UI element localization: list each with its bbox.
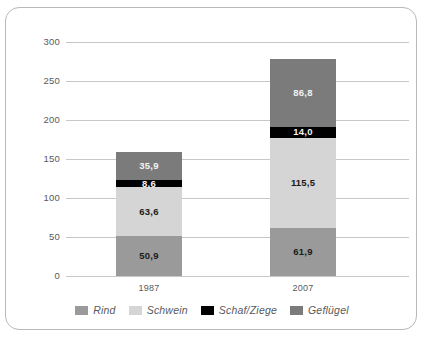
y-axis-tick-label: 50 (18, 231, 60, 242)
bar-segment: 14,0 (270, 127, 336, 138)
chart-card: 050100150200250300 50,963,68,635,961,911… (5, 7, 417, 330)
legend-swatch-schaf-ziege (201, 306, 214, 315)
gridline (66, 276, 409, 277)
bar-segment: 115,5 (270, 138, 336, 228)
bar-segment: 35,9 (116, 152, 182, 180)
legend-item-label: Schwein (147, 304, 188, 316)
bar-segment-value-label: 86,8 (293, 88, 312, 98)
x-axis-tick-label: 2007 (263, 283, 343, 293)
legend-item[interactable]: Rind (75, 304, 115, 316)
legend-swatch-gefluegel (290, 306, 303, 315)
legend-item-label: Rind (93, 304, 115, 316)
bar-segment-value-label: 14,0 (293, 127, 312, 137)
y-axis-tick-label: 150 (18, 153, 60, 164)
x-axis-tick-label: 1987 (109, 283, 189, 293)
y-axis-tick-label: 0 (18, 270, 60, 281)
y-axis-tick-label: 300 (18, 36, 60, 47)
bar-segment-value-label: 8,6 (142, 179, 156, 189)
bar-segment: 8,6 (116, 180, 182, 187)
bar-segment-value-label: 63,6 (139, 207, 158, 217)
bar-segment: 86,8 (270, 59, 336, 127)
y-axis-tick-label: 250 (18, 75, 60, 86)
bar-segment: 61,9 (270, 228, 336, 276)
legend-swatch-schwein (129, 306, 142, 315)
legend-item-label: Geflügel (308, 304, 349, 316)
legend-item[interactable]: Geflügel (290, 304, 349, 316)
bar-segment-value-label: 35,9 (139, 161, 158, 171)
stacked-bar: 61,9115,514,086,8 (270, 42, 336, 276)
bar-segment-value-label: 50,9 (139, 251, 158, 261)
legend-item[interactable]: Schwein (129, 304, 188, 316)
legend-item[interactable]: Schaf/Ziege (201, 304, 277, 316)
legend-swatch-rind (75, 306, 88, 315)
y-axis-tick-label: 100 (18, 192, 60, 203)
chart-legend: RindSchweinSchaf/ZiegeGeflügel (6, 304, 418, 316)
legend-item-label: Schaf/Ziege (219, 304, 277, 316)
bar-segment: 63,6 (116, 187, 182, 237)
bar-segment-value-label: 115,5 (291, 178, 315, 188)
bar-segment-value-label: 61,9 (293, 247, 312, 257)
bar-segment: 50,9 (116, 236, 182, 276)
y-axis-tick-label: 200 (18, 114, 60, 125)
stacked-bar: 50,963,68,635,9 (116, 42, 182, 276)
